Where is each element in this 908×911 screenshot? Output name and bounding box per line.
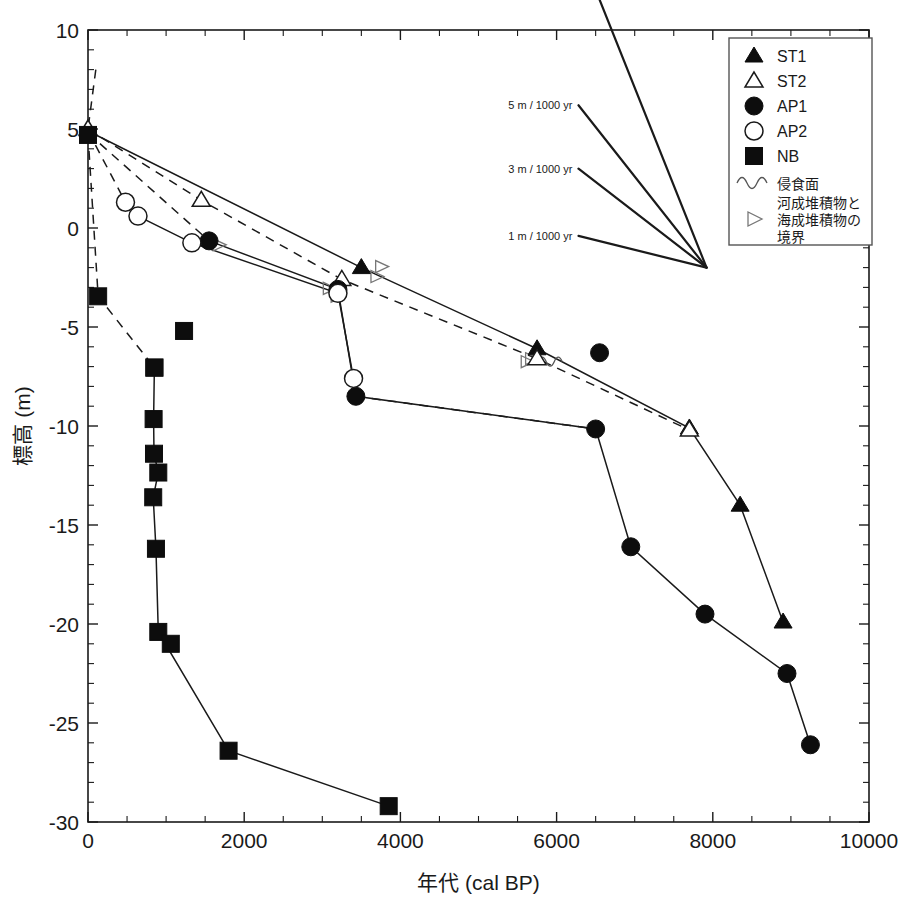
y-tick-label: 0 [67,217,79,240]
legend-entry-label: 河成堆積物と [777,195,861,211]
x-tick-label: 0 [82,829,94,852]
marker-filled-circle [778,665,796,683]
x-tick-label: 4000 [377,829,424,852]
marker-open-circle [129,207,147,225]
marker-filled-square [162,635,179,652]
marker-filled-square [380,798,397,815]
y-tick-label: -10 [49,415,79,438]
y-axis-title: 標高 (m) [11,386,34,465]
marker-filled-circle [745,97,763,115]
x-tick-label: 10000 [840,829,898,852]
x-tick-label: 6000 [533,829,580,852]
marker-filled-square [150,464,167,481]
legend-entry-label: ST1 [777,48,806,65]
y-tick-label: -15 [49,514,79,537]
marker-open-circle [116,193,134,211]
chart-legend: ST1ST2AP1AP2NB侵食面河成堆積物と海成堆積物の境界 [729,38,872,245]
marker-filled-circle [347,387,365,405]
marker-filled-square [145,489,162,506]
marker-open-circle [745,122,763,140]
legend-entry-label: 海成堆積物の [777,212,861,228]
elevation-vs-age-scatter-chart: 0200040006000800010000 1050-5-10-15-20-2… [0,0,908,911]
marker-filled-square [176,322,193,339]
y-tick-label: -25 [49,712,79,735]
marker-filled-circle [622,538,640,556]
marker-filled-square [80,126,97,143]
marker-open-circle [329,284,347,302]
legend-entry-label: AP2 [777,123,807,140]
marker-filled-square [90,288,107,305]
slope-ray-label: 1 m / 1000 yr [508,230,573,242]
marker-open-circle [345,369,363,387]
marker-filled-circle [587,420,605,438]
legend-entry-label: 境界 [777,229,805,245]
marker-filled-square [220,742,237,759]
slope-ray-label: 3 m / 1000 yr [508,163,573,175]
marker-filled-circle [801,736,819,754]
y-tick-label: -30 [49,811,79,834]
marker-open-circle [183,234,201,252]
marker-filled-square [746,148,763,165]
x-tick-label: 2000 [221,829,268,852]
legend-entry-label: ST2 [777,73,806,90]
chart-root: 0200040006000800010000 1050-5-10-15-20-2… [0,0,908,911]
marker-filled-square [147,540,164,557]
slope-ray-label: 5 m / 1000 yr [508,99,573,111]
y-tick-label: 10 [56,19,79,42]
marker-filled-circle [200,232,218,250]
y-tick-label: 5 [67,118,79,141]
legend-entry-label: 侵食面 [777,176,819,192]
y-tick-label: -5 [60,316,79,339]
x-tick-label: 8000 [689,829,736,852]
marker-filled-square [145,445,162,462]
x-axis-title: 年代 (cal BP) [417,871,540,894]
marker-filled-square [145,411,162,428]
marker-filled-square [146,359,163,376]
y-tick-label: -20 [49,613,79,636]
legend-entry-label: NB [777,148,799,165]
marker-filled-circle [591,344,609,362]
marker-filled-circle [696,605,714,623]
legend-entry-label: AP1 [777,98,807,115]
